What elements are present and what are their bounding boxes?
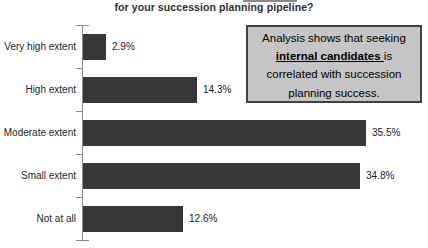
annotation-line: correlated with succession	[248, 65, 420, 83]
annotation-line: Analysis shows that seeking	[248, 29, 420, 47]
bar	[83, 34, 106, 60]
annotation-line: planning success.	[248, 84, 420, 102]
category-label: High extent	[0, 77, 76, 103]
value-label: 34.8%	[366, 163, 394, 189]
annotation-emphasized-text: internal candidates	[276, 50, 384, 62]
category-label: Not at all	[0, 206, 76, 232]
value-label: 14.3%	[203, 77, 231, 103]
annotation-line: internal candidates is	[248, 47, 420, 65]
bar-chart: for your succession planning pipeline? V…	[0, 0, 428, 248]
axis-tick	[76, 25, 89, 26]
bar	[83, 77, 197, 103]
axis-tick	[76, 68, 82, 69]
axis-tick	[76, 154, 82, 155]
axis-tick	[76, 197, 82, 198]
bar	[83, 120, 366, 146]
axis-tick	[76, 240, 89, 241]
value-label: 2.9%	[112, 34, 135, 60]
category-label: Small extent	[0, 163, 76, 189]
value-label: 35.5%	[372, 120, 400, 146]
bar	[83, 163, 360, 189]
axis-tick	[76, 111, 82, 112]
chart-title: for your succession planning pipeline?	[0, 1, 428, 13]
category-label: Very high extent	[0, 34, 76, 60]
category-label: Moderate extent	[0, 120, 76, 146]
bar	[83, 206, 183, 232]
value-label: 12.6%	[189, 206, 217, 232]
annotation-box: Analysis shows that seekinginternal cand…	[246, 25, 422, 103]
